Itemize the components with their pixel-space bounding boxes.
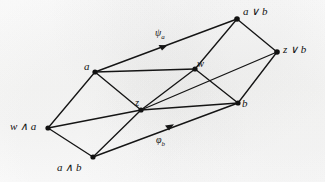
- psi-subscript: a: [161, 33, 165, 41]
- edge-aandb-to-z: [93, 110, 141, 157]
- arrow-label-phi-b: φb: [156, 135, 165, 148]
- vertex-dot-w-and-a: [45, 125, 50, 130]
- vertex-dot-a-or-b: [234, 16, 240, 22]
- vertex-label-z-or-b: z ∨ b: [283, 44, 306, 55]
- edge-w-to-b: [195, 69, 238, 103]
- vertex-dot-b: [235, 100, 240, 105]
- edge-z-to-zorb: [141, 52, 277, 110]
- vertex-dot-z-or-b: [274, 49, 280, 55]
- arrow-label-psi-a: ψa: [155, 28, 165, 41]
- edge-aorb-to-zorb: [237, 19, 277, 52]
- edge-wanda-to-aandb: [48, 128, 93, 157]
- edge-wanda-to-z: [48, 110, 141, 128]
- vertex-dot-a: [92, 69, 97, 74]
- edge-a-to-w: [95, 69, 195, 72]
- diagram-arrowheads: [159, 45, 175, 131]
- edge-aandb-to-b: [93, 103, 238, 157]
- vertex-label-a-and-b: a ∧ b: [57, 162, 82, 173]
- vertex-dot-a-and-b: [90, 154, 95, 159]
- vertex-label-w-and-a: w ∧ a: [10, 121, 36, 132]
- phi-subscript: b: [162, 140, 166, 148]
- vertex-dot-z: [138, 107, 143, 112]
- vertex-label-b: b: [242, 98, 248, 109]
- vertex-label-w: w: [197, 59, 204, 70]
- vertex-label-z: z: [135, 98, 139, 109]
- vertex-label-a-or-b: a ∨ b: [243, 6, 268, 17]
- vertex-label-a: a: [84, 61, 90, 72]
- diagram-page: w ∧ a a a ∧ b z w b a ∨ b z ∨ b ψa φb: [0, 0, 325, 182]
- edge-z-to-w: [141, 69, 195, 110]
